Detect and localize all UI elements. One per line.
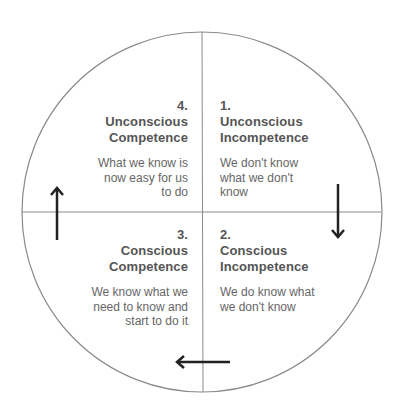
- quadrant-2-title-line1: Conscious: [220, 243, 370, 259]
- quadrant-2-description: We do know what we don't know: [220, 285, 370, 314]
- quadrant-3-number: 3.: [38, 227, 188, 243]
- quadrant-4-description: What we know is now easy for us to do: [38, 156, 188, 200]
- quadrant-3: 3. Conscious Competence We know what we …: [38, 227, 188, 329]
- quadrant-2-title-line2: Incompetence: [220, 259, 370, 275]
- quadrant-4-title-line2: Competence: [38, 130, 188, 146]
- quadrant-1-title-line2: Incompetence: [220, 130, 370, 146]
- quadrant-2: 2. Conscious Incompetence We do know wha…: [220, 227, 370, 314]
- quadrant-3-title-line2: Competence: [38, 259, 188, 275]
- quadrant-1-number: 1.: [220, 98, 370, 114]
- quadrant-1-description: We don't know what we don't know: [220, 156, 370, 200]
- quadrant-4-title-line1: Unconscious: [38, 114, 188, 130]
- quadrant-3-title-line1: Conscious: [38, 243, 188, 259]
- arrow-left-icon: [177, 356, 230, 368]
- quadrant-4-number: 4.: [38, 98, 188, 114]
- quadrant-3-description: We know what we need to know and start t…: [38, 285, 188, 329]
- quadrant-1: 1. Unconscious Incompetence We don't kno…: [220, 98, 370, 200]
- quadrant-2-number: 2.: [220, 227, 370, 243]
- cycle-diagram: [0, 0, 399, 419]
- quadrant-1-title-line1: Unconscious: [220, 114, 370, 130]
- quadrant-4: 4. Unconscious Competence What we know i…: [38, 98, 188, 200]
